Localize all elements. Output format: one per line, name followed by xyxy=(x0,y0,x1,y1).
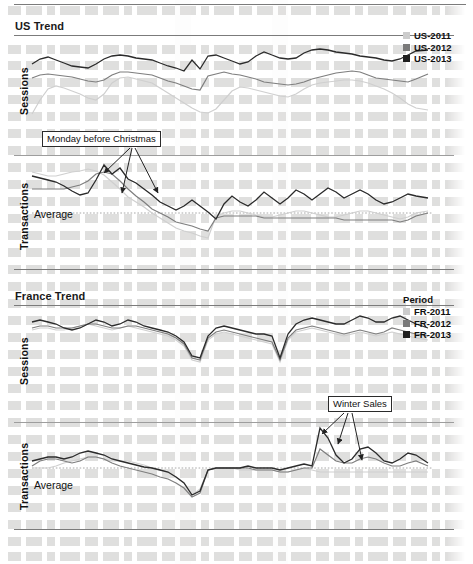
us-bottom-rule xyxy=(14,269,454,270)
us-legend: US-2011 US-2012 US-2013 xyxy=(403,30,452,65)
legend-item-us-2013[interactable]: US-2013 xyxy=(403,53,452,65)
us-sessions-plot xyxy=(32,36,432,124)
series-us-2012-sessions xyxy=(32,71,428,90)
page-top-rule xyxy=(14,4,466,5)
legend-label-fr-2012: FR-2012 xyxy=(414,318,451,330)
legend-item-fr-2011[interactable]: FR-2011 xyxy=(403,306,451,318)
legend-swatch-fr-2013 xyxy=(403,331,410,338)
france-legend: Period FR-2011 FR-2012 FR-2013 xyxy=(403,294,451,341)
legend-item-fr-2013[interactable]: FR-2013 xyxy=(403,329,451,341)
legend-label-fr-2011: FR-2011 xyxy=(414,306,450,318)
legend-item-us-2011[interactable]: US-2011 xyxy=(403,30,452,42)
legend-item-fr-2012[interactable]: FR-2012 xyxy=(403,318,451,330)
series-fr-2011-sessions xyxy=(32,324,428,362)
us-average-label: Average xyxy=(34,208,73,220)
france-legend-title: Period xyxy=(403,294,451,305)
france-transactions-axis-label: Transactions xyxy=(18,443,30,510)
legend-swatch-us-2012 xyxy=(403,44,410,51)
france-sessions-plot xyxy=(32,306,432,388)
legend-label-us-2013: US-2013 xyxy=(414,53,452,65)
series-us-2013-sessions xyxy=(32,49,428,71)
france-average-label: Average xyxy=(34,479,73,491)
series-fr-2012-sessions xyxy=(32,324,428,360)
france-sessions-axis-label: Sessions xyxy=(18,337,30,385)
legend-label-fr-2013: FR-2013 xyxy=(414,329,451,341)
us-sessions-axis-label: Sessions xyxy=(18,67,30,115)
legend-label-us-2012: US-2012 xyxy=(414,42,452,54)
legend-swatch-us-2011 xyxy=(403,32,410,39)
france-annotation-arrows xyxy=(300,407,430,477)
series-us-2011-sessions xyxy=(32,77,428,114)
series-fr-2013-sessions xyxy=(32,316,428,358)
legend-swatch-us-2013 xyxy=(403,55,410,62)
legend-swatch-fr-2011 xyxy=(403,308,410,315)
legend-swatch-fr-2012 xyxy=(403,320,410,327)
us-transactions-axis-label: Transactions xyxy=(18,183,30,250)
france-bottom-rule xyxy=(14,529,454,530)
france-panel-title: France Trend xyxy=(15,290,85,302)
us-panel-title: US Trend xyxy=(15,20,64,32)
legend-item-us-2012[interactable]: US-2012 xyxy=(403,42,452,54)
legend-label-us-2011: US-2011 xyxy=(414,30,451,42)
chart-page: US Trend Sessions US-2011 US-2012 US-201… xyxy=(0,0,473,564)
us-annotation-arrows xyxy=(42,142,202,208)
